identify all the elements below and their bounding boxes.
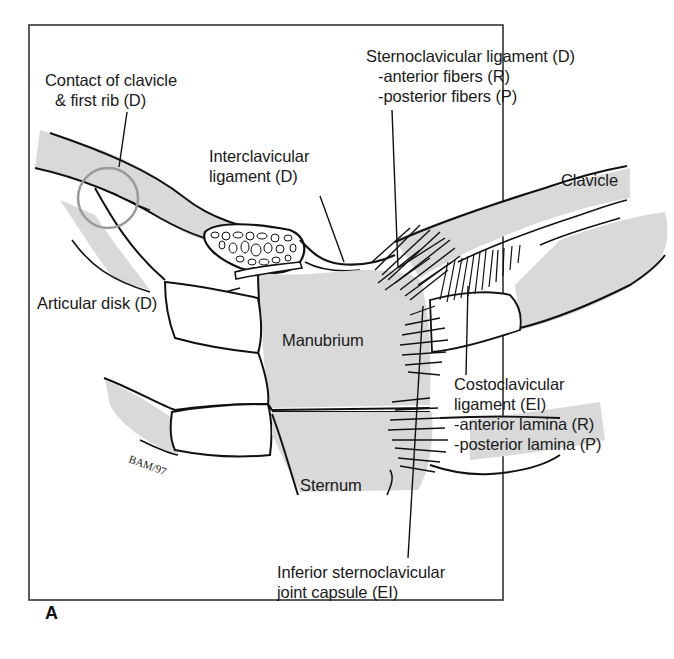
label-line: -posterior lamina (P) [454,434,601,454]
interclavicular-leader-line [320,196,344,262]
left-first-rib [60,200,150,290]
label-manubrium: Manubrium [282,330,364,350]
panel-letter: A [45,603,58,624]
label-contact-clavicle-first-rib: Contact of clavicle & first rib (D) [45,70,177,110]
label-line: -anterior fibers (R) [366,66,575,86]
label-articular-disk: Articular disk (D) [37,293,157,313]
interclavicular-ligament [300,240,395,265]
artist-signature: BAM/97 [127,453,168,478]
label-line: Contact of clavicle [45,70,177,90]
label-line: Inferior sternoclavicular [277,562,445,582]
label-line: & first rib (D) [45,90,177,110]
label-line: Costoclavicular [454,374,601,394]
label-sternoclavicular-ligament: Sternoclavicular ligament (D) -anterior … [366,46,575,106]
label-line: -posterior fibers (P) [366,86,575,106]
sternoclavicular-leader-line [392,110,398,268]
right-second-rib-lower-edge [430,455,560,474]
label-line: joint capsule (EI) [277,582,445,602]
right-first-costal-cartilage [430,292,521,352]
label-line: ligament (EI) [454,394,601,414]
label-line: -anterior lamina (R) [454,414,601,434]
label-clavicle: Clavicle [561,170,618,190]
label-line: Interclavicular [209,146,309,166]
label-costoclavicular-ligament: Costoclavicular ligament (EI) -anterior … [454,374,601,454]
second-costal-cartilage [171,404,272,456]
label-inferior-sternoclavicular-capsule: Inferior sternoclavicular joint capsule … [277,562,445,602]
label-sternum: Sternum [300,475,362,495]
contact-leader-line [119,112,127,167]
label-line: ligament (D) [209,166,309,186]
label-interclavicular-ligament: Interclavicular ligament (D) [209,146,309,186]
second-rib-left [105,380,178,455]
first-costal-cartilage [165,282,261,353]
label-line: Sternoclavicular ligament (D) [366,46,575,66]
